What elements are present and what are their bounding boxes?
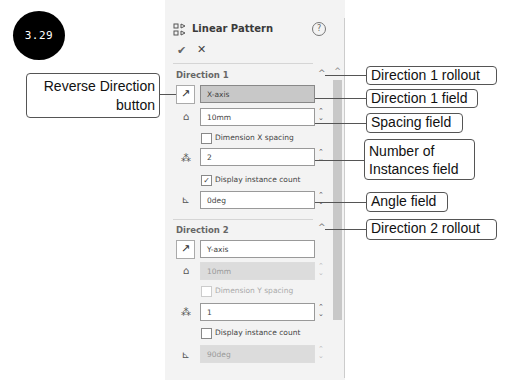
- instances-icon: ⁂: [177, 153, 195, 164]
- direction1-collapse-chevron-icon[interactable]: ^: [318, 68, 326, 78]
- cancel-x-icon[interactable]: ✕: [197, 43, 206, 56]
- spacing-d2-icon: ⌂: [177, 265, 195, 276]
- ok-check-icon[interactable]: ✔: [177, 44, 186, 57]
- direction2-spacing-spinner[interactable]: ⌃⌄: [317, 263, 325, 277]
- direction2-instances-field[interactable]: 1: [200, 303, 315, 321]
- direction2-angle-field[interactable]: 90deg: [200, 345, 315, 363]
- callout-direction1-field: Direction 1 field: [366, 89, 478, 108]
- direction1-dimension-spacing-checkbox[interactable]: [201, 133, 212, 144]
- panel-title: Linear Pattern: [192, 23, 273, 34]
- direction1-field[interactable]: X-axis: [200, 85, 315, 103]
- angle-icon: ⊾: [177, 194, 195, 205]
- leader-line: [315, 123, 366, 124]
- leader-line: [315, 98, 366, 99]
- callout-text: Number of: [369, 142, 470, 160]
- callout-text: button: [31, 96, 155, 115]
- callout-instances-field: Number of Instances field: [364, 139, 475, 180]
- angle-icon: ⊾: [177, 349, 195, 360]
- direction2-dimension-spacing-label: Dimension Y spacing: [215, 286, 293, 295]
- callout-reverse-direction: Reverse Direction button: [26, 73, 160, 118]
- direction1-spacing-field[interactable]: 10mm: [200, 108, 315, 126]
- spacing-d1-icon: ⌂: [177, 111, 195, 122]
- panel-header: Linear Pattern ? ✔ ✕: [165, 14, 345, 64]
- direction1-angle-spinner[interactable]: ⌃⌄: [317, 192, 325, 206]
- callout-text: Instances field: [369, 160, 470, 178]
- linear-pattern-property-manager: Linear Pattern ? ✔ ✕ ^ Direction 1 ^ ↗ X…: [165, 0, 345, 380]
- direction2-angle-spinner[interactable]: ⌃⌄: [317, 346, 325, 360]
- direction1-reverse-direction-button[interactable]: ↗: [176, 85, 195, 104]
- callout-direction2-rollout: Direction 2 rollout: [366, 219, 497, 240]
- callout-text: Reverse Direction: [31, 77, 155, 96]
- direction1-display-count-label: Display instance count: [215, 175, 300, 184]
- direction2-display-count-checkbox[interactable]: [201, 328, 212, 339]
- direction2-reverse-direction-button[interactable]: ↗: [176, 240, 195, 259]
- leader-line: [160, 94, 176, 95]
- direction2-collapse-chevron-icon[interactable]: ^: [318, 222, 326, 232]
- callout-direction1-rollout: Direction 1 rollout: [366, 66, 497, 85]
- figure-number: 3.29: [25, 29, 54, 42]
- direction1-angle-field[interactable]: 0deg: [200, 191, 315, 209]
- direction2-spacing-field[interactable]: 10mm: [200, 262, 315, 280]
- direction2-display-count-label: Display instance count: [215, 328, 300, 337]
- leader-line: [315, 160, 364, 161]
- help-icon[interactable]: ?: [312, 22, 326, 36]
- instances-icon: ⁂: [177, 307, 195, 318]
- leader-line: [325, 75, 366, 76]
- direction1-spacing-spinner[interactable]: ⌃⌄: [317, 108, 325, 122]
- leader-line: [315, 202, 366, 203]
- direction1-instances-field[interactable]: 2: [200, 148, 315, 166]
- direction2-rollout-title[interactable]: Direction 2: [176, 225, 229, 235]
- header-divider: [173, 63, 313, 64]
- direction1-display-count-checkbox[interactable]: ✓: [201, 175, 212, 186]
- figure-number-badge: 3.29: [13, 11, 65, 60]
- direction2-field[interactable]: Y-axis: [200, 240, 315, 258]
- direction2-dimension-spacing-checkbox[interactable]: [201, 286, 212, 297]
- section-divider: [173, 219, 313, 220]
- scrollbar-thumb[interactable]: [333, 80, 342, 320]
- callout-angle-field: Angle field: [366, 192, 448, 212]
- direction1-rollout-title[interactable]: Direction 1: [176, 70, 229, 80]
- direction2-instances-spinner[interactable]: ⌃⌄: [317, 304, 325, 318]
- panel-border: [344, 18, 345, 378]
- direction1-dimension-spacing-label: Dimension X spacing: [215, 133, 294, 142]
- linear-pattern-icon: [173, 23, 187, 37]
- callout-spacing-field: Spacing field: [366, 113, 463, 133]
- leader-line: [325, 229, 366, 230]
